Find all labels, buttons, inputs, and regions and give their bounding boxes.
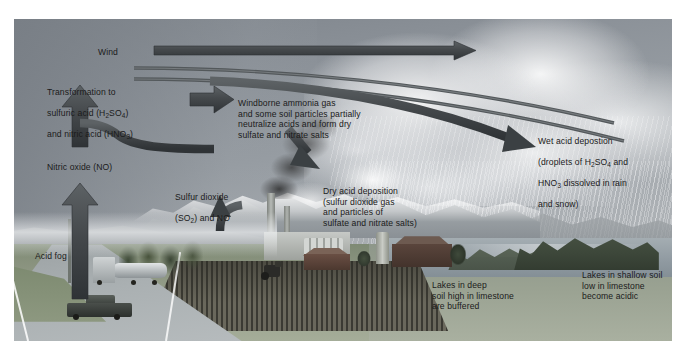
transformation-line-2a: sulfuric acid (H bbox=[47, 108, 105, 118]
wet-line-3a: HNO bbox=[538, 178, 557, 188]
subscript-4: 4 bbox=[122, 112, 126, 119]
label-lakes-shallow-soil: Lakes in shallow soil low in limestone b… bbox=[582, 270, 662, 302]
label-sulfur-dioxide: Sulfur dioxide (SO2) and NO bbox=[175, 181, 230, 223]
label-dry-acid-deposition: Dry acid deposition (sulfur dioxide gas … bbox=[323, 186, 417, 228]
transformation-line-2b: SO bbox=[109, 108, 122, 118]
wet-line-4: and snow) bbox=[538, 199, 579, 209]
subscript-3: 3 bbox=[126, 133, 130, 140]
wet-line-2a: (droplets of H bbox=[538, 157, 591, 167]
wet-line-1: Wet acid depostion bbox=[538, 136, 613, 146]
nitric-oxide-up-arrow bbox=[62, 183, 98, 299]
label-windborne-ammonia: Windborne ammonia gas and some soil part… bbox=[238, 98, 361, 140]
subscript-2: 2 bbox=[105, 112, 109, 119]
windborne-right-arrow bbox=[190, 86, 234, 113]
label-wet-acid-deposition: Wet acid depostion (droplets of H2SO4 an… bbox=[538, 125, 628, 210]
acid-deposition-illustration: Wind Transformation to sulfuric acid (H2… bbox=[14, 19, 672, 341]
transformation-line-2c: ) bbox=[125, 108, 128, 118]
label-nitric-oxide: Nitric oxide (NO) bbox=[47, 162, 112, 173]
label-transformation: Transformation to sulfuric acid (H2SO4) … bbox=[47, 76, 133, 140]
label-lakes-deep-soil: Lakes in deep soil high in limestone are… bbox=[432, 280, 514, 312]
subscript-2: 2 bbox=[591, 161, 595, 168]
wet-line-2b: SO bbox=[595, 157, 608, 167]
subscript-4: 4 bbox=[607, 161, 611, 168]
sulfur-line-2a: (SO bbox=[175, 213, 191, 223]
figure-canvas: Wind Transformation to sulfuric acid (H2… bbox=[0, 0, 686, 358]
wet-line-2c: and bbox=[611, 157, 628, 167]
label-acid-fog: Acid fog bbox=[35, 251, 67, 262]
transformation-line-3b: ) bbox=[130, 129, 133, 139]
sulfur-line-1: Sulfur dioxide bbox=[175, 192, 228, 202]
transformation-line-3a: and nitric acid (HNO bbox=[47, 129, 126, 139]
sulfur-line-2b: ) and NO bbox=[194, 213, 230, 223]
wind-arrow bbox=[154, 41, 476, 60]
subscript-2: 2 bbox=[191, 217, 195, 224]
subscript-3: 3 bbox=[557, 182, 561, 189]
transformation-line-1: Transformation to bbox=[47, 87, 116, 97]
wet-line-3b: dissolved in rain bbox=[561, 178, 627, 188]
label-wind: Wind bbox=[98, 47, 118, 58]
